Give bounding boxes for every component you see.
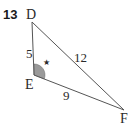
triangle-diagram: 13 D E F 5 12 9 ★ (0, 0, 132, 130)
side-label-df: 12 (74, 51, 87, 64)
star-icon: ★ (43, 59, 50, 67)
side-label-ef: 9 (63, 89, 70, 102)
vertex-label-e: E (25, 78, 34, 92)
side-label-de: 5 (26, 47, 33, 60)
triangle-svg (0, 0, 132, 130)
vertex-label-d: D (26, 8, 36, 22)
problem-number: 13 (3, 8, 17, 21)
vertex-label-f: F (120, 112, 128, 126)
side-ef (34, 75, 124, 110)
